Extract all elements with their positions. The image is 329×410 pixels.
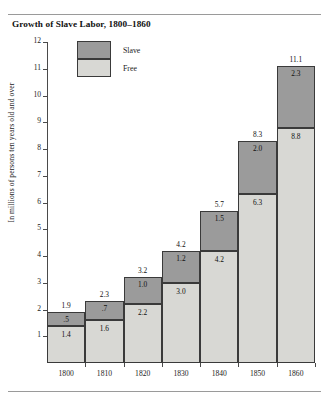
y-tick-label: 11	[7, 63, 41, 72]
bar-value-slave-1830: 1.2	[163, 255, 199, 262]
y-tick-line	[43, 42, 47, 43]
bar-value-free-1830: 3.0	[163, 288, 199, 295]
y-tick-label: 10	[7, 90, 41, 99]
y-tick-label: 9	[7, 116, 41, 125]
bar-segment-slave-1820[interactable]: 1.0	[124, 277, 162, 304]
bar-total-1850: 8.3	[238, 131, 276, 138]
bar-total-1810: 2.3	[85, 291, 123, 298]
y-tick-label: 6	[7, 197, 41, 206]
x-tick-line-1850	[277, 363, 278, 367]
bar-group-1820[interactable]: 1.02.2	[124, 277, 162, 363]
x-tick-label-1810: 1810	[85, 369, 123, 378]
bar-value-slave-1860: 2.3	[278, 70, 314, 77]
bar-segment-free-1830[interactable]: 3.0	[162, 283, 200, 363]
chart-title: Growth of Slave Labor, 1800–1860	[12, 19, 151, 29]
y-tick-line	[43, 149, 47, 150]
legend: Slave Free	[77, 41, 181, 78]
bar-total-1820: 3.2	[124, 267, 162, 274]
y-tick-line	[43, 256, 47, 257]
x-tick-line-1800	[85, 363, 86, 367]
bar-value-free-1850: 6.3	[239, 199, 275, 206]
bar-value-free-1800: 1.4	[48, 331, 84, 338]
bar-value-slave-1850: 2.0	[239, 145, 275, 152]
bar-total-1860: 11.1	[277, 56, 315, 63]
y-tick-line	[43, 122, 47, 123]
bar-segment-free-1840[interactable]: 4.2	[200, 251, 238, 363]
legend-swatch-free	[77, 59, 111, 77]
bar-segment-slave-1860[interactable]: 2.3	[277, 66, 315, 128]
bar-group-1810[interactable]: .71.6	[85, 301, 123, 363]
bar-segment-slave-1840[interactable]: 1.5	[200, 211, 238, 251]
y-tick-line	[43, 69, 47, 70]
y-tick-line	[43, 310, 47, 311]
y-tick-label: 5	[7, 223, 41, 232]
bar-segment-slave-1800[interactable]: .5	[47, 312, 85, 325]
y-tick-label: 4	[7, 250, 41, 259]
bar-total-1800: 1.9	[47, 302, 85, 309]
bar-value-free-1820: 2.2	[125, 309, 161, 316]
y-tick-line	[43, 203, 47, 204]
top-rule	[8, 14, 321, 15]
y-tick-line	[43, 176, 47, 177]
x-tick-line-1840	[238, 363, 239, 367]
bar-total-1830: 4.2	[162, 241, 200, 248]
y-tick-label: 12	[7, 36, 41, 45]
bar-segment-slave-1810[interactable]: .7	[85, 301, 123, 320]
bar-value-slave-1800: .5	[48, 316, 84, 323]
bar-value-free-1860: 8.8	[278, 133, 314, 140]
bar-segment-free-1800[interactable]: 1.4	[47, 326, 85, 363]
y-tick-line	[43, 96, 47, 97]
bar-segment-free-1860[interactable]: 8.8	[277, 128, 315, 363]
y-tick-label: 8	[7, 143, 41, 152]
y-tick-label: 1	[7, 330, 41, 339]
x-tick-label-1820: 1820	[124, 369, 162, 378]
bar-segment-slave-1830[interactable]: 1.2	[162, 251, 200, 283]
y-tick-line	[43, 283, 47, 284]
x-tick-label-1850: 1850	[238, 369, 276, 378]
x-tick-label-1840: 1840	[200, 369, 238, 378]
bar-group-1830[interactable]: 1.23.0	[162, 251, 200, 363]
bottom-rule	[8, 391, 321, 392]
bar-value-free-1840: 4.2	[201, 256, 237, 263]
x-tick-line-1810	[124, 363, 125, 367]
bar-value-slave-1820: 1.0	[125, 281, 161, 288]
bar-value-free-1810: 1.6	[86, 325, 122, 332]
bar-total-1840: 5.7	[200, 201, 238, 208]
legend-label-free: Free	[123, 64, 137, 73]
x-tick-line-1860	[315, 363, 316, 367]
x-tick-label-1860: 1860	[277, 369, 315, 378]
y-tick-label: 2	[7, 304, 41, 313]
x-tick-label-1800: 1800	[47, 369, 85, 378]
bar-group-1850[interactable]: 2.06.3	[238, 141, 276, 363]
x-tick-line-1830	[200, 363, 201, 367]
bar-segment-free-1850[interactable]: 6.3	[238, 194, 276, 363]
bar-segment-slave-1850[interactable]: 2.0	[238, 141, 276, 195]
y-tick-label: 3	[7, 277, 41, 286]
legend-swatch-slave	[77, 41, 111, 59]
bar-value-slave-1810: .7	[86, 305, 122, 312]
y-tick-label: 7	[7, 170, 41, 179]
bar-group-1860[interactable]: 2.38.8	[277, 66, 315, 363]
x-tick-line-1820	[162, 363, 163, 367]
bar-segment-free-1810[interactable]: 1.6	[85, 320, 123, 363]
bar-group-1800[interactable]: .51.4	[47, 312, 85, 363]
bar-group-1840[interactable]: 1.54.2	[200, 211, 238, 363]
bar-value-slave-1840: 1.5	[201, 215, 237, 222]
bar-segment-free-1820[interactable]: 2.2	[124, 304, 162, 363]
y-tick-line	[43, 229, 47, 230]
legend-label-slave: Slave	[123, 46, 140, 55]
chart-figure: Growth of Slave Labor, 1800–1860 In mill…	[0, 0, 329, 410]
x-tick-label-1830: 1830	[162, 369, 200, 378]
